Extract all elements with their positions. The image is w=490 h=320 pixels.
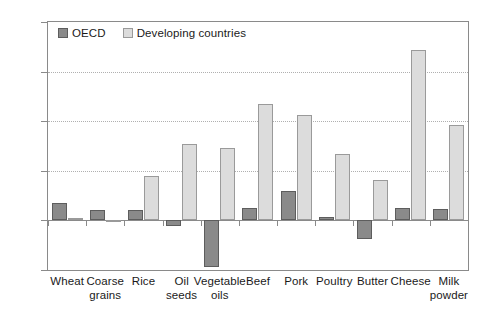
bar-vegetable-oils-developing-countries <box>220 148 235 220</box>
x-tick-mark <box>430 220 431 226</box>
bar-group <box>48 22 86 270</box>
chart-legend: OECD Developing countries <box>58 27 246 39</box>
bar-chart: 200150100500-50 WheatCoarsegrainsRiceOil… <box>0 0 490 320</box>
bar-wheat-developing-countries <box>68 218 83 220</box>
bars-layer <box>48 22 468 270</box>
bar-coarse-grains-developing-countries <box>106 220 121 222</box>
x-tick-mark <box>239 220 240 226</box>
bar-group <box>239 22 277 270</box>
bar-group <box>315 22 353 270</box>
bar-group <box>392 22 430 270</box>
x-tick-mark <box>468 220 469 226</box>
x-tick-mark <box>392 220 393 226</box>
x-tick-mark <box>201 220 202 226</box>
bar-poultry-oecd <box>319 217 334 220</box>
legend-item-oecd: OECD <box>58 27 106 39</box>
bar-coarse-grains-oecd <box>90 210 105 220</box>
legend-label-oecd: OECD <box>72 27 106 39</box>
bar-group <box>201 22 239 270</box>
bar-butter-oecd <box>357 220 372 239</box>
bar-rice-developing-countries <box>144 176 159 221</box>
legend-label-developing-countries: Developing countries <box>137 27 246 39</box>
bar-beef-developing-countries <box>258 104 273 220</box>
bar-group <box>353 22 391 270</box>
x-tick-mark <box>86 220 87 226</box>
x-tick-mark <box>277 220 278 226</box>
bar-group <box>163 22 201 270</box>
bar-beef-oecd <box>242 208 257 220</box>
bar-wheat-oecd <box>52 203 67 221</box>
x-tick-mark <box>315 220 316 226</box>
bar-milk-powder-developing-countries <box>449 125 464 220</box>
bar-milk-powder-oecd <box>433 209 448 220</box>
legend-swatch-oecd <box>58 28 68 38</box>
bar-group <box>430 22 468 270</box>
bar-pork-developing-countries <box>297 115 312 220</box>
legend-swatch-developing-countries <box>123 28 133 38</box>
bar-group <box>124 22 162 270</box>
bar-poultry-developing-countries <box>335 154 350 220</box>
x-tick-mark <box>124 220 125 226</box>
bar-cheese-developing-countries <box>411 50 426 221</box>
bar-oil-seeds-developing-countries <box>182 144 197 220</box>
legend-item-developing-countries: Developing countries <box>123 27 246 39</box>
bar-group <box>277 22 315 270</box>
x-tick-mark <box>48 220 49 226</box>
x-tick-mark <box>163 220 164 226</box>
bar-vegetable-oils-oecd <box>204 220 219 267</box>
bar-cheese-oecd <box>395 208 410 220</box>
x-axis-label-milk-powder: Milkpowder <box>422 275 476 302</box>
x-tick-mark <box>353 220 354 226</box>
bar-group <box>86 22 124 270</box>
x-axis: WheatCoarsegrainsRiceOilseedsVegetableoi… <box>48 275 468 319</box>
bar-butter-developing-countries <box>373 180 388 221</box>
bar-oil-seeds-oecd <box>166 220 181 226</box>
bar-rice-oecd <box>128 210 143 220</box>
bar-pork-oecd <box>281 191 296 221</box>
